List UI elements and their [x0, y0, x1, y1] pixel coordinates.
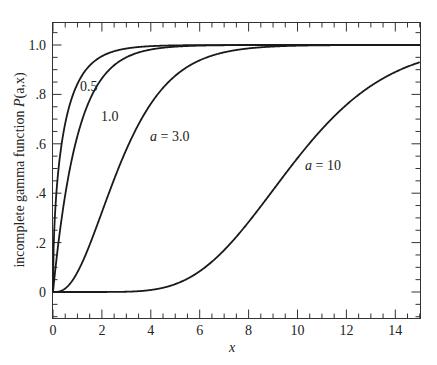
curve-label-a-10-value: = 10 — [312, 158, 341, 173]
curve-label-a-0-5: 0.5 — [80, 79, 98, 94]
curve-label-a-10: a = 10 — [305, 158, 341, 173]
y-tick-label: .4 — [36, 186, 47, 201]
curve-label-a-3-0-variable: a — [150, 129, 157, 144]
x-tick-label: 8 — [245, 323, 252, 338]
y-axis-label: incomplete gamma function P(a,x) — [12, 72, 28, 268]
y-tick-label: .6 — [36, 137, 47, 152]
curve-label-a-10-variable: a — [305, 158, 312, 173]
y-axis-label-function: P — [12, 98, 27, 108]
incomplete-gamma-chart: 024681012140.2.4.6.81.0 0.5 1.0 a = 3.0 … — [0, 0, 437, 365]
axis-ticks — [53, 23, 421, 319]
x-tick-label: 14 — [388, 323, 402, 338]
y-axis-label-args: (a,x) — [12, 72, 28, 98]
x-axis-label: x — [228, 340, 236, 355]
curve-a-1 — [53, 45, 420, 292]
x-tick-label: 0 — [50, 323, 57, 338]
x-tick-label: 2 — [98, 323, 105, 338]
curve-label-a-1-0: 1.0 — [101, 109, 119, 124]
curve-a-3 — [53, 45, 420, 292]
curve-label-a-3-0-value: = 3.0 — [157, 129, 189, 144]
y-tick-label: .8 — [36, 87, 47, 102]
curve-a-0-5 — [53, 45, 420, 292]
y-tick-label: .2 — [36, 236, 47, 251]
x-tick-label: 12 — [339, 323, 353, 338]
x-tick-label: 6 — [196, 323, 203, 338]
plot-frame — [53, 23, 421, 319]
curve-label-a-3-0: a = 3.0 — [150, 129, 189, 144]
x-tick-label: 10 — [291, 323, 305, 338]
y-tick-label: 0 — [39, 285, 46, 300]
y-axis-label-text: incomplete gamma function — [12, 107, 27, 268]
y-tick-label: 1.0 — [29, 38, 47, 53]
curves — [53, 45, 420, 292]
x-tick-label: 4 — [147, 323, 154, 338]
curve-a-10 — [53, 62, 420, 292]
